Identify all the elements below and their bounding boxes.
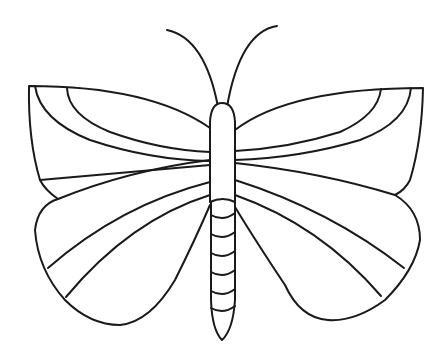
- right-antenna: [227, 26, 277, 107]
- butterfly-drawing: [0, 0, 440, 357]
- thorax: [210, 103, 235, 202]
- abdomen: [211, 199, 235, 340]
- butterfly-svg: [0, 0, 440, 357]
- left-antenna: [167, 30, 218, 107]
- upper-right-wing: [235, 88, 423, 195]
- lower-right-wing: [235, 180, 420, 320]
- upper-left-wing: [29, 86, 210, 199]
- lower-left-wing: [35, 182, 210, 325]
